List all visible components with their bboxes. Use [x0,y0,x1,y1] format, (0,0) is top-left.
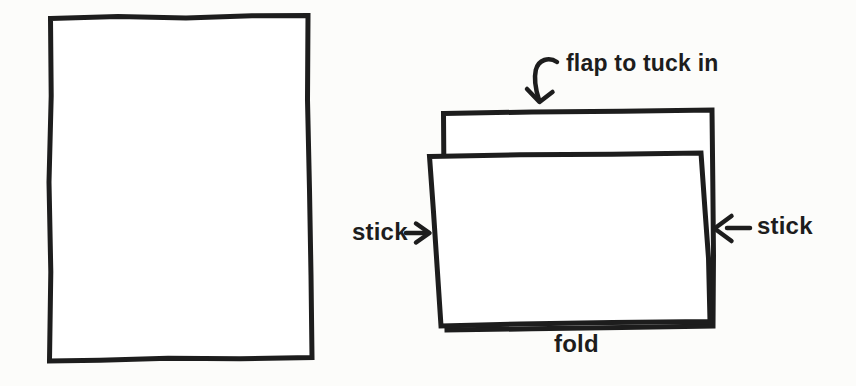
fold-label: fold [554,331,599,357]
right-arrow-icon [406,224,430,243]
folded-sheet-outline [430,153,711,326]
paper-folding-diagram: flap to tuck in stick stick fold [0,0,856,386]
diagram-canvas [0,0,856,386]
left-arrow-icon [715,216,751,241]
stick-right-label: stick [757,213,813,239]
stick-left-label: stick [352,219,408,245]
unfolded-sheet-outline [49,16,312,362]
flap-label: flap to tuck in [566,51,719,76]
curved-down-arrow-icon [527,59,557,102]
